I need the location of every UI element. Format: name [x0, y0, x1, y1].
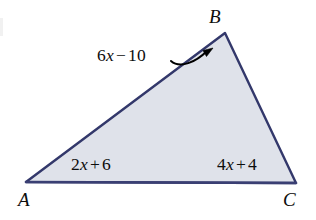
side-label-ac: 2x+6 — [71, 156, 111, 174]
side-bc-operator: + — [234, 154, 248, 174]
vertex-label-c: C — [283, 190, 296, 209]
side-bc-constant: 4 — [248, 154, 257, 174]
triangle-diagram-svg — [0, 0, 316, 220]
side-bc-coefficient: 4 — [217, 154, 226, 174]
side-bc-variable: x — [226, 154, 234, 174]
side-label-ab: 6x−10 — [97, 47, 146, 65]
vertex-label-b: B — [209, 7, 221, 26]
side-ac-variable: x — [80, 154, 88, 174]
side-ac-operator: + — [88, 154, 102, 174]
side-ab-variable: x — [106, 45, 114, 65]
side-label-bc: 4x+4 — [217, 156, 257, 174]
side-ac-coefficient: 2 — [71, 154, 80, 174]
side-ac-constant: 6 — [102, 154, 111, 174]
triangle-edge-AC — [26, 182, 296, 183]
side-ab-operator: − — [114, 45, 128, 65]
side-ab-coefficient: 6 — [97, 45, 106, 65]
geometry-figure: B A C 6x−10 2x+6 4x+4 — [0, 0, 316, 220]
side-ab-constant: 10 — [128, 45, 146, 65]
vertex-label-a: A — [18, 190, 30, 209]
